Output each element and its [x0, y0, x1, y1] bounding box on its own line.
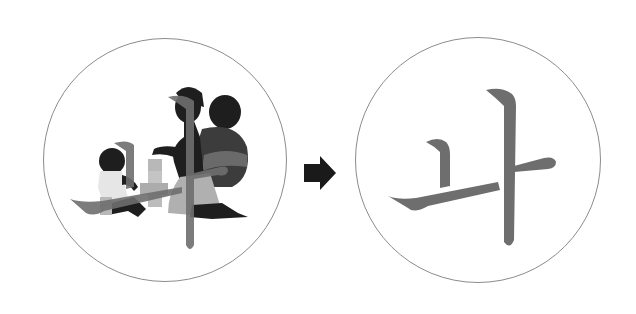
korean-character-na-icon: [354, 36, 602, 284]
right-character-circle: [354, 36, 602, 284]
left-illustration-circle: [42, 37, 288, 283]
mother-children-silhouette-icon: [42, 37, 288, 283]
right-arrow-icon: [302, 154, 338, 192]
